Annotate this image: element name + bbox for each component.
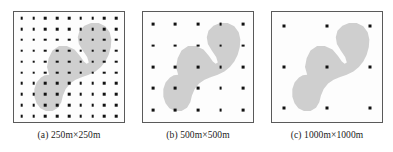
panel-caption-b: (b) 500m×500m	[166, 129, 229, 141]
sensor-dot	[56, 82, 59, 85]
sensor-dot	[368, 25, 371, 28]
sensor-dot	[115, 71, 118, 74]
sensor-dot	[115, 39, 118, 42]
sensor-dot	[68, 115, 71, 118]
sensor-dot	[174, 87, 177, 90]
sensor-dot	[115, 49, 118, 52]
sensor-dot	[115, 93, 118, 96]
sensor-dot	[68, 49, 71, 52]
sensor-dot	[32, 17, 35, 20]
sensor-dot	[197, 23, 200, 26]
sensor-dot	[103, 82, 106, 85]
sensor-dot	[68, 93, 71, 96]
sensor-grid-c	[272, 12, 382, 122]
sensor-dot	[80, 17, 83, 20]
sensor-dot	[56, 39, 59, 42]
sensor-dot	[91, 39, 94, 42]
sensor-dot	[68, 39, 71, 42]
sensor-dot	[44, 60, 47, 63]
sensor-dot	[115, 82, 118, 85]
panel-caption-a: (a) 250m×250m	[38, 129, 101, 141]
sensor-dot	[283, 25, 286, 28]
sensor-dot	[56, 17, 59, 20]
sensor-dot	[91, 115, 94, 118]
figure-panel-c: (c) 1000m×1000m	[271, 11, 383, 141]
sensor-dot	[80, 93, 83, 96]
sensor-dot	[174, 108, 177, 111]
sensor-dot	[56, 49, 59, 52]
sensor-dot	[91, 28, 94, 31]
sensor-dot	[32, 71, 35, 74]
sensor-dot	[197, 44, 200, 47]
sensor-dot	[44, 82, 47, 85]
sensor-dot	[103, 60, 106, 63]
sensor-dot	[242, 87, 245, 90]
sensor-dot	[56, 60, 59, 63]
sensor-dot	[44, 49, 47, 52]
sensor-dot	[151, 23, 154, 26]
sensor-dot	[80, 82, 83, 85]
sensor-dot	[219, 87, 222, 90]
panel-caption-c: (c) 1000m×1000m	[291, 129, 364, 141]
sensor-dot	[103, 17, 106, 20]
sensor-dot	[80, 60, 83, 63]
sensor-dot	[115, 115, 118, 118]
sensor-dot	[115, 28, 118, 31]
figure-panel-row: (a) 250m×250m (b) 500m×500m (c) 1000m×10…	[0, 0, 393, 152]
sensor-dot	[283, 66, 286, 69]
sensor-dot	[103, 115, 106, 118]
sensor-dot	[32, 49, 35, 52]
sensor-dot	[103, 104, 106, 107]
sensor-dot	[91, 93, 94, 96]
sensor-dot	[20, 82, 23, 85]
sensor-dot	[20, 60, 23, 63]
sensor-dot	[80, 104, 83, 107]
sensor-dot	[103, 39, 106, 42]
sensor-dot	[242, 108, 245, 111]
sensor-dot	[44, 17, 47, 20]
sensor-dot	[32, 82, 35, 85]
sensor-dot	[151, 44, 154, 47]
sensor-dot	[68, 104, 71, 107]
sensor-dot	[56, 93, 59, 96]
sensor-dot	[103, 49, 106, 52]
sensor-dot	[326, 25, 329, 28]
sensor-dot	[20, 71, 23, 74]
figure-panel-b: (b) 500m×500m	[142, 11, 254, 141]
sensor-dot	[80, 39, 83, 42]
sensor-dot	[91, 71, 94, 74]
sensor-grid-b	[143, 12, 253, 122]
plot-box-a	[13, 11, 125, 123]
sensor-dot	[44, 39, 47, 42]
sensor-dot	[20, 115, 23, 118]
sensor-dot	[68, 60, 71, 63]
sensor-dot	[56, 104, 59, 107]
sensor-dot	[56, 115, 59, 118]
sensor-dot	[219, 108, 222, 111]
sensor-dot	[91, 82, 94, 85]
sensor-grid-a	[14, 12, 124, 122]
sensor-dot	[115, 60, 118, 63]
sensor-dot	[326, 66, 329, 69]
sensor-dot	[91, 60, 94, 63]
sensor-dot	[115, 104, 118, 107]
sensor-dot	[20, 104, 23, 107]
sensor-dot	[368, 106, 371, 109]
sensor-dot	[219, 66, 222, 69]
sensor-dot	[103, 71, 106, 74]
sensor-dot	[80, 28, 83, 31]
sensor-dot	[151, 108, 154, 111]
sensor-dot	[44, 71, 47, 74]
sensor-dot	[368, 66, 371, 69]
figure-panel-a: (a) 250m×250m	[13, 11, 125, 141]
sensor-dot	[44, 28, 47, 31]
sensor-dot	[44, 104, 47, 107]
sensor-dot	[91, 104, 94, 107]
sensor-dot	[20, 17, 23, 20]
sensor-dot	[20, 28, 23, 31]
sensor-dot	[20, 93, 23, 96]
sensor-dot	[68, 82, 71, 85]
sensor-dot	[326, 106, 329, 109]
sensor-dot	[80, 71, 83, 74]
sensor-dot	[32, 115, 35, 118]
